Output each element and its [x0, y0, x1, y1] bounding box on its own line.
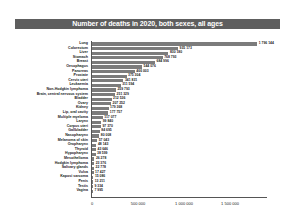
bar — [92, 130, 100, 133]
x-tick-label: 1 500 000 — [221, 201, 239, 206]
bar — [92, 116, 103, 119]
x-tick-label: 500 000 — [131, 201, 145, 206]
bar — [92, 107, 109, 110]
bar — [92, 79, 123, 82]
bar-row: Multiple myeloma117 077 — [0, 116, 292, 120]
bar — [92, 148, 96, 151]
bar-row: Lip, oral cavity177 757 — [0, 111, 292, 115]
bar-row: Oropharynx48 143 — [0, 143, 292, 147]
bar — [92, 171, 94, 174]
category-label: Vagina — [76, 188, 88, 193]
bar-row: Vagina7 995 — [0, 189, 292, 193]
bar — [92, 167, 94, 170]
bar-row: Penis13 211 — [0, 180, 292, 184]
bar — [92, 190, 93, 193]
x-tick-label: 0 — [91, 201, 93, 206]
bar — [92, 42, 257, 45]
bar-row: Cervix uteri341 831 — [0, 79, 292, 83]
bar-row: Thyroid43 646 — [0, 148, 292, 152]
bar — [92, 162, 94, 165]
bar-row: Pancreas466 003 — [0, 70, 292, 74]
value-label: 7 995 — [95, 188, 104, 193]
bar — [92, 88, 116, 91]
bar-row: Kidney179 368 — [0, 106, 292, 110]
bar-row: Colorectum935 173 — [0, 47, 292, 51]
x-axis-line — [91, 197, 267, 198]
bar-row: Nasopharynx80 008 — [0, 134, 292, 138]
bar-row: Ovary207 252 — [0, 102, 292, 106]
bar-row: Hypopharynx38 599 — [0, 152, 292, 156]
bar — [92, 125, 101, 128]
bar-row: Melanoma of skin57 043 — [0, 139, 292, 143]
value-label: 1 796 144 — [259, 41, 274, 46]
bar — [92, 65, 142, 68]
bar-row: Brain, central nervous system251 329 — [0, 93, 292, 97]
value-label: 684 996 — [157, 59, 169, 64]
bar-row: Mesothelioma26 278 — [0, 157, 292, 161]
bar — [92, 121, 101, 124]
bar-row: Prostate375 304 — [0, 74, 292, 78]
bar-row: Lung1 796 144 — [0, 42, 292, 46]
bar — [92, 185, 93, 188]
bar-row: Kaposi sarcoma15 086 — [0, 175, 292, 179]
bar-chart-plot-area: Lung1 796 144Colorectum935 173Liver830 1… — [0, 0, 292, 216]
bar-row: Vulva17 427 — [0, 171, 292, 175]
bar — [92, 139, 97, 142]
bar — [92, 56, 163, 59]
bar — [92, 75, 127, 78]
bar — [92, 98, 112, 101]
bar-row: Liver830 180 — [0, 51, 292, 55]
bar-row: Salivary glands22 778 — [0, 166, 292, 170]
bar-row: Bladder212 536 — [0, 97, 292, 101]
bar — [92, 180, 93, 183]
bar-row: Hodgkin lymphoma23 376 — [0, 162, 292, 166]
bar — [92, 176, 93, 179]
bar — [92, 102, 111, 105]
bar — [92, 93, 115, 96]
bar — [92, 157, 94, 160]
bar-row: Leukaemia311 594 — [0, 83, 292, 87]
bar — [92, 144, 96, 147]
bar-row: Larynx99 840 — [0, 120, 292, 124]
bar — [92, 47, 178, 50]
bar — [92, 84, 121, 87]
bar-row: Corpus uteri97 370 — [0, 125, 292, 129]
bar-row: Gallbladder84 695 — [0, 129, 292, 133]
bar-row: Stomach768 793 — [0, 56, 292, 60]
bar — [92, 52, 168, 55]
bar-row: Testis9 334 — [0, 185, 292, 189]
x-tick-label: 1 000 000 — [175, 201, 193, 206]
